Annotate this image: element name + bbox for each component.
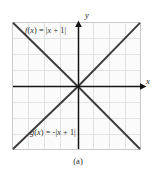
curve-label-g: g(x) = -|x + 1| — [30, 128, 76, 137]
figure-container: f(x) = |x + 1| g(x) = -|x + 1| y x (a) — [0, 0, 156, 174]
x-axis-label: x — [146, 76, 150, 86]
curve-label-f: f(x) = |x + 1| — [25, 26, 66, 35]
figure-caption: (a) — [0, 156, 156, 166]
graph-plot — [0, 0, 156, 174]
y-axis-label: y — [85, 10, 89, 20]
